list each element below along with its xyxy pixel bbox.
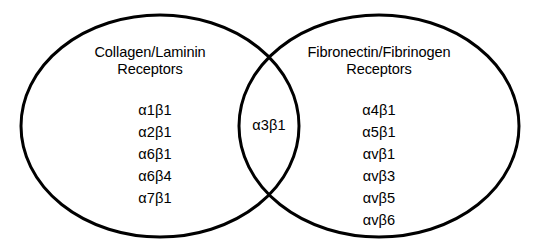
left-set-heading-line-1: Collagen/Laminin — [60, 44, 240, 61]
left-set-member-list: α1β1 α2β1 α6β1 α6β4 α7β1 — [85, 99, 225, 209]
list-item: αvβ1 — [309, 143, 449, 165]
list-item: α6β1 — [85, 143, 225, 165]
list-item: αvβ5 — [309, 187, 449, 209]
list-item: α6β4 — [85, 165, 225, 187]
list-item: α5β1 — [309, 121, 449, 143]
list-item: α7β1 — [85, 187, 225, 209]
left-set-heading-line-2: Receptors — [60, 61, 240, 78]
intersection-member-list: α3β1 — [234, 115, 304, 135]
list-item: α4β1 — [309, 99, 449, 121]
list-item: α3β1 — [234, 115, 304, 135]
venn-diagram-figure: Collagen/Laminin Receptors α1β1 α2β1 α6β… — [0, 0, 537, 250]
right-set-heading: Fibronectin/Fibrinogen Receptors — [289, 44, 469, 77]
list-item: α2β1 — [85, 121, 225, 143]
list-item: αvβ3 — [309, 165, 449, 187]
right-set-heading-line-2: Receptors — [289, 61, 469, 78]
left-set-heading: Collagen/Laminin Receptors — [60, 44, 240, 77]
list-item: α1β1 — [85, 99, 225, 121]
venn-text-layer: Collagen/Laminin Receptors α1β1 α2β1 α6β… — [0, 0, 537, 250]
right-set-heading-line-1: Fibronectin/Fibrinogen — [289, 44, 469, 61]
right-set-member-list: α4β1 α5β1 αvβ1 αvβ3 αvβ5 αvβ6 — [309, 99, 449, 231]
list-item: αvβ6 — [309, 209, 449, 231]
